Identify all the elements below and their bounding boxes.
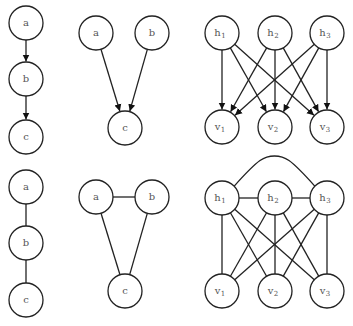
node-h2: h2 <box>258 181 292 215</box>
node-a: a <box>9 170 43 204</box>
node-label: c <box>23 131 29 142</box>
node-h3: h3 <box>310 181 344 215</box>
node-label: c <box>122 122 128 133</box>
node-c: c <box>9 120 43 154</box>
edge-a-c <box>101 213 120 275</box>
arrow-edge-b-c <box>130 49 148 111</box>
node-label: b <box>23 237 29 248</box>
node-h2: h2 <box>258 16 292 50</box>
node-h1: h1 <box>205 16 239 50</box>
node-label: c <box>122 285 128 296</box>
graph-moralized-undirected: h1h2h3v1v2v3 <box>205 156 344 308</box>
node-label: a <box>93 27 99 38</box>
node-label: b <box>23 73 29 84</box>
node-v2: v2 <box>258 110 292 144</box>
arrow-edge-a-c <box>101 49 120 111</box>
graph-chain-directed: abc <box>9 6 43 154</box>
node-label: a <box>23 17 29 28</box>
node-c: c <box>9 283 43 317</box>
node-label: a <box>23 181 29 192</box>
node-a: a <box>9 6 43 40</box>
node-label: b <box>149 191 155 202</box>
graph-v-structure-directed: abc <box>79 16 169 145</box>
node-label: a <box>93 191 99 202</box>
node-v3: v3 <box>310 274 344 308</box>
edge-b-c <box>130 213 148 274</box>
node-a: a <box>79 180 113 214</box>
node-v3: v3 <box>310 110 344 144</box>
node-v1: v1 <box>205 274 239 308</box>
node-b: b <box>135 16 169 50</box>
node-c: c <box>108 111 142 145</box>
node-v1: v1 <box>205 110 239 144</box>
node-label: c <box>23 294 29 305</box>
graph-chain-undirected: abc <box>9 170 43 317</box>
graphical-models-diagram: abcabch1h2h3v1v2v3abcabch1h2h3v1v2v3 <box>0 0 353 326</box>
node-b: b <box>9 226 43 260</box>
node-a: a <box>79 16 113 50</box>
node-label: b <box>149 27 155 38</box>
node-h3: h3 <box>310 16 344 50</box>
node-b: b <box>135 180 169 214</box>
graph-bipartite-directed: h1h2h3v1v2v3 <box>205 16 344 144</box>
graph-triangle-undirected: abc <box>79 180 169 308</box>
node-h1: h1 <box>205 181 239 215</box>
node-v2: v2 <box>258 274 292 308</box>
node-c: c <box>108 274 142 308</box>
node-b: b <box>9 62 43 96</box>
